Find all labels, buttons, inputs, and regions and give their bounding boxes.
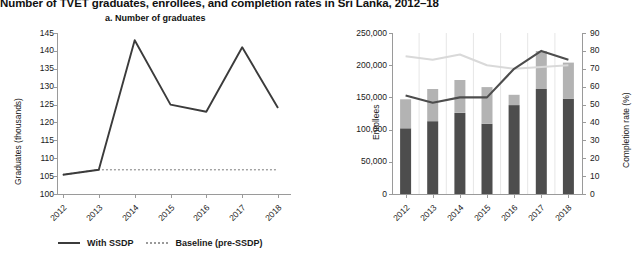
panel-a-x-tick-mark: [242, 195, 243, 198]
panel-b-x-tick-label: 2018: [544, 202, 574, 232]
panel-b-x-tick-label: 2016: [490, 202, 520, 232]
panel-b-x-tick-mark: [514, 195, 515, 198]
bar-segment-public: [427, 121, 438, 194]
panel-a-legend: With SSDP Baseline (pre-SSDP): [58, 238, 262, 248]
panel-b-x-tick-label: 2012: [381, 202, 411, 232]
panel-b-x-tick-label: 2015: [463, 202, 493, 232]
panel-a-x-tick-label: 2015: [146, 202, 176, 232]
panel-b-right-y-tick-label: 10: [590, 171, 599, 181]
panel-b-right-y-tick-mark: [583, 140, 586, 141]
panel-a-x-tick-mark: [135, 195, 136, 198]
panel-b-right-y-tick-label: 80: [590, 45, 599, 55]
panel-a-x-tick-label: 2018: [254, 202, 284, 232]
panel-a-x-tick-label: 2013: [75, 202, 105, 232]
with-ssdp-swatch: [58, 242, 80, 245]
chart-panel-b: b. Number of enrollees and completion ra…: [315, 0, 637, 275]
panel-b-right-y-tick-mark: [583, 105, 586, 106]
panel-b-right-y-tick-mark: [583, 176, 586, 177]
panel-b-right-y-tick-mark: [583, 158, 586, 159]
baseline-legend-label: Baseline (pre-SSDP): [175, 238, 262, 248]
panel-a-y-tick-label: 100: [26, 189, 54, 199]
panel-b-left-y-tick-label: 100,000: [315, 124, 387, 134]
bar-segment-public: [536, 89, 547, 194]
panel-a-y-tick-label: 125: [26, 99, 54, 109]
bar-segment-private: [563, 63, 574, 99]
panel-b-x-tick-mark: [406, 195, 407, 198]
bar-segment-private: [509, 95, 520, 105]
panel-b-left-y-tick-label: 150,000: [315, 92, 387, 102]
bar-segment-public: [454, 113, 465, 194]
panel-b-right-y-tick-label: 50: [590, 99, 599, 109]
panel-b-right-y-tick-mark: [583, 122, 586, 123]
panel-b-x-tick-mark: [541, 195, 542, 198]
panel-b-right-y-tick-mark: [583, 194, 586, 195]
panel-b-left-y-tick-label: 200,000: [315, 60, 387, 70]
panel-a-x-tick-mark: [63, 195, 64, 198]
panel-b-left-y-tick-label: 50,000: [315, 156, 387, 166]
panel-b-plot-area: [392, 33, 582, 194]
panel-a-y-tick-label: 120: [26, 117, 54, 127]
panel-b-left-axis-label: Enrollees: [371, 105, 381, 140]
panel-a-x-axis-line: [57, 194, 291, 195]
panel-b-right-y-tick-label: 20: [590, 153, 599, 163]
panel-b-right-y-tick-mark: [583, 87, 586, 88]
panel-a-y-axis-label: Graduates (thousands): [13, 98, 23, 185]
with-ssdp-legend-label: With SSDP: [87, 238, 133, 248]
panel-a-title: a. Number of graduates: [105, 13, 206, 23]
panel-a-plot-area: [57, 33, 290, 194]
panel-b-right-axis-label: Completion rate (%): [621, 92, 631, 168]
panel-b-right-y-tick-mark: [583, 51, 586, 52]
panel-a-y-tick-label: 110: [26, 153, 54, 163]
panel-a-y-tick-label: 135: [26, 63, 54, 73]
panel-b-right-y-tick-label: 30: [590, 135, 599, 145]
baseline-swatch: [146, 242, 168, 244]
panel-b-right-y-tick-label: 0: [590, 189, 595, 199]
panel-b-right-y-tick-label: 60: [590, 81, 599, 91]
bar-segment-public: [563, 99, 574, 194]
panel-a-x-tick-label: 2014: [110, 202, 140, 232]
panel-a-x-tick-label: 2016: [182, 202, 212, 232]
with-ssdp-line: [63, 40, 278, 175]
panel-b-x-tick-label: 2013: [409, 202, 439, 232]
panel-a-y-tick-label: 140: [26, 45, 54, 55]
panel-b-x-tick-mark: [460, 195, 461, 198]
panel-a-x-tick-mark: [99, 195, 100, 198]
panel-b-bars: [400, 51, 574, 194]
bar-segment-public: [482, 124, 493, 194]
bar-segment-public: [400, 128, 411, 194]
panel-b-x-tick-label: 2014: [436, 202, 466, 232]
panel-a-x-tick-label: 2012: [39, 202, 69, 232]
panel-b-x-tick-mark: [433, 195, 434, 198]
panel-a-x-tick-mark: [278, 195, 279, 198]
figure-root: Number of TVET graduates, enrollees, and…: [0, 0, 637, 275]
panel-a-y-tick-label: 130: [26, 81, 54, 91]
panel-a-x-tick-label: 2017: [218, 202, 248, 232]
panel-b-right-y-tick-label: 90: [590, 28, 599, 38]
panel-a-y-tick-label: 145: [26, 28, 54, 38]
panel-b-right-y-tick-label: 40: [590, 117, 599, 127]
panel-b-left-y-tick-label: 250,000: [315, 28, 387, 38]
bar-segment-public: [509, 105, 520, 194]
panel-b-left-y-tick-label: 0: [315, 189, 387, 199]
bar-segment-private: [400, 99, 411, 128]
panel-b-x-tick-label: 2017: [517, 202, 547, 232]
panel-a-y-tick-label: 105: [26, 171, 54, 181]
panel-b-right-y-tick-mark: [583, 69, 586, 70]
panel-b-x-tick-mark: [568, 195, 569, 198]
chart-panel-a: a. Number of graduates Graduates (thousa…: [0, 0, 315, 275]
panel-b-x-tick-mark: [487, 195, 488, 198]
panel-b-right-y-tick-mark: [583, 33, 586, 34]
panel-b-right-y-tick-label: 70: [590, 63, 599, 73]
bar-segment-private: [427, 89, 438, 121]
panel-b-right-axis-line: [582, 33, 583, 195]
bar-segment-private: [536, 51, 547, 89]
panel-a-x-tick-mark: [206, 195, 207, 198]
panel-a-x-tick-mark: [171, 195, 172, 198]
panel-a-y-tick-label: 115: [26, 135, 54, 145]
